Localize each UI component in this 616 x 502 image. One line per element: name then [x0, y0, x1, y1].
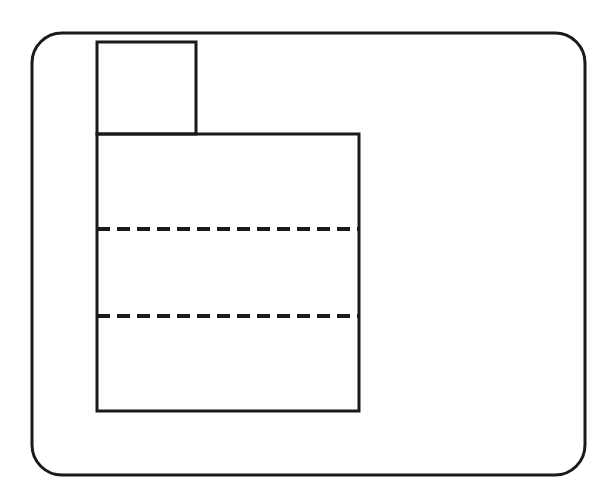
drawing-canvas [0, 0, 616, 502]
technical-drawing-svg [0, 0, 616, 502]
lower-rectangle-face [97, 134, 359, 411]
upper-rectangle-face [97, 42, 196, 134]
